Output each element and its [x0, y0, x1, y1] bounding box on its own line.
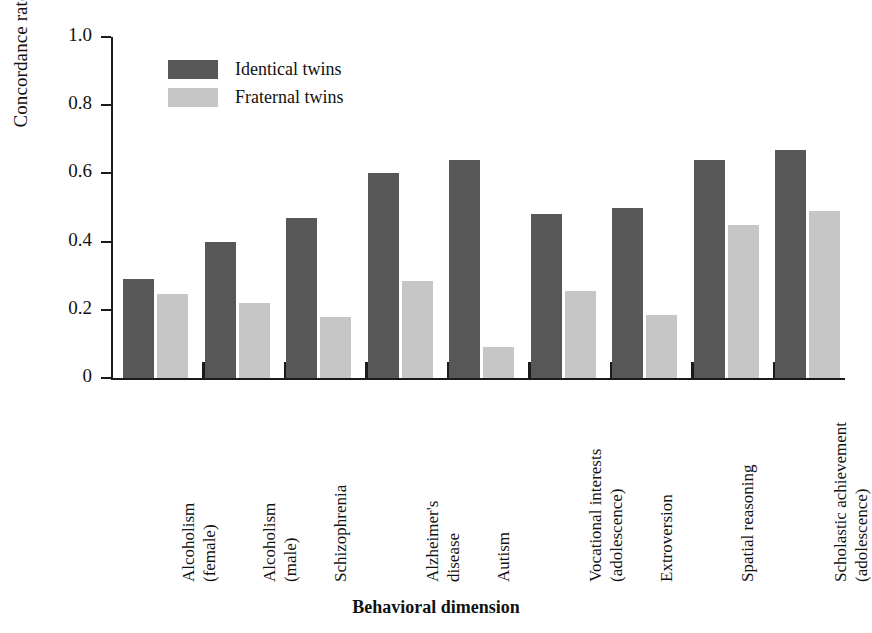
legend-item-identical: Identical twins	[168, 56, 343, 82]
x-axis-tick-label: Autism	[493, 382, 537, 582]
x-axis-tick-label-line: Spatial reasoning	[737, 382, 758, 582]
y-axis-tick	[101, 172, 111, 174]
y-axis-tick-label: 0.2	[30, 297, 92, 319]
x-axis-tick-label-line: Extroversion	[656, 382, 677, 582]
bar	[449, 160, 480, 378]
x-axis-tick-label: Alzheimer'sdisease	[422, 382, 466, 582]
legend: Identical twins Fraternal twins	[168, 56, 343, 112]
x-axis-tick-label: Schizophrenia	[330, 382, 374, 582]
bar	[565, 291, 596, 378]
x-axis-tick-label-line: Autism	[493, 382, 514, 582]
x-axis-tick-label-line: (adolescence)	[851, 382, 872, 582]
bar	[286, 218, 317, 378]
legend-label-identical: Identical twins	[235, 59, 341, 80]
bar	[205, 242, 236, 378]
legend-swatch-fraternal-icon	[168, 88, 218, 107]
bar	[728, 225, 759, 378]
bar	[123, 279, 154, 378]
bar	[775, 150, 806, 378]
y-axis-tick-label: 0	[30, 365, 92, 387]
legend-swatch-identical-icon	[168, 60, 218, 79]
x-axis-tick-label: Alcoholism(male)	[259, 382, 303, 582]
x-axis-tick-label-line: Alcoholism	[259, 382, 280, 582]
x-axis-tick-label: Scholastic achievement(adolescence)	[830, 382, 872, 582]
x-axis-tick-label-line: Schizophrenia	[330, 382, 351, 582]
bar	[320, 317, 351, 378]
y-axis-tick	[101, 377, 111, 379]
x-axis-tick-label-line: Vocational interests	[585, 382, 606, 582]
x-axis-tick-labels: Alcoholism(female)Alcoholism(male)Schizo…	[113, 382, 845, 587]
y-axis-tick	[101, 36, 111, 38]
bar	[531, 214, 562, 378]
x-axis-tick-label-line: (male)	[280, 382, 301, 582]
bar	[402, 281, 433, 378]
x-axis-tick-label: Spatial reasoning	[737, 382, 781, 582]
x-axis-tick-label-line: Alzheimer's	[422, 382, 443, 582]
legend-label-fraternal: Fraternal twins	[235, 87, 343, 108]
y-axis-tick-label: 0.8	[30, 92, 92, 114]
y-axis-tick	[101, 309, 111, 311]
x-axis-line	[111, 378, 845, 380]
x-axis-tick-label-line: Alcoholism	[178, 382, 199, 582]
legend-item-fraternal: Fraternal twins	[168, 84, 343, 110]
x-axis-tick-label-line: Scholastic achievement	[830, 382, 851, 582]
x-axis-title: Behavioral dimension	[0, 597, 872, 618]
bar	[646, 315, 677, 378]
bar	[239, 303, 270, 378]
bar	[612, 208, 643, 379]
bar	[483, 347, 514, 378]
x-axis-tick-label-line: disease	[443, 382, 464, 582]
x-axis-tick-label: Extroversion	[656, 382, 700, 582]
bar	[694, 160, 725, 378]
y-axis-tick	[101, 241, 111, 243]
x-axis-tick-label-line: (adolescence)	[606, 382, 627, 582]
bar	[368, 173, 399, 378]
bar	[157, 294, 188, 378]
y-axis-tick	[101, 104, 111, 106]
x-axis-tick-label-line: (female)	[199, 382, 220, 582]
y-axis-tick-label: 1.0	[30, 24, 92, 46]
x-axis-tick-label: Alcoholism(female)	[178, 382, 222, 582]
y-axis-tick-label: 0.4	[30, 229, 92, 251]
bar-chart-figure: Concordance rate 1.00.80.60.40.20 Identi…	[0, 0, 872, 633]
bar	[809, 211, 840, 378]
y-axis-tick-label: 0.6	[30, 160, 92, 182]
x-axis-tick-label: Vocational interests(adolescence)	[585, 382, 629, 582]
